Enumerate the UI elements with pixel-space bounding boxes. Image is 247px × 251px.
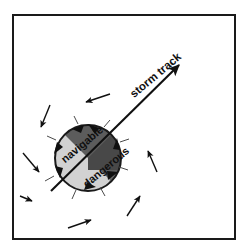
cyclone-diagram: storm track navigable dangerous: [0, 0, 247, 251]
diagram-frame: [13, 15, 235, 239]
diagram-canvas: storm track navigable dangerous: [0, 0, 247, 251]
